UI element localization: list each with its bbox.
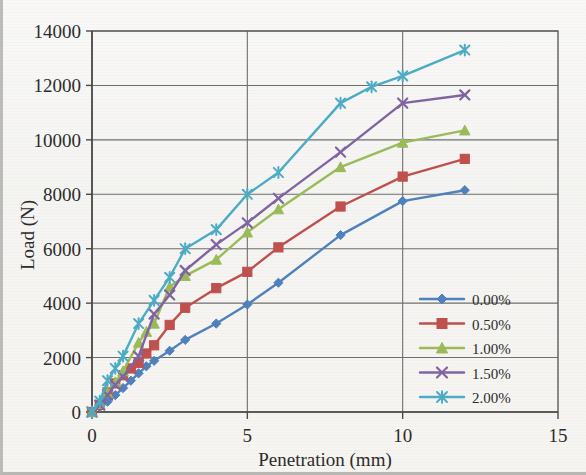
data-point-marker-square — [398, 172, 407, 181]
legend-entry-2-00pct[interactable]: 2.00% — [420, 390, 511, 406]
legend-entry-1-00pct[interactable]: 1.00% — [420, 341, 511, 357]
data-point-marker-square — [150, 341, 159, 350]
legend-entry-0-00pct[interactable]: 0.00% — [420, 292, 511, 308]
x-tick-label: 10 — [393, 425, 412, 446]
data-point-marker-asterisk — [274, 167, 283, 178]
x-tick-label: 5 — [243, 425, 253, 446]
x-axis-tick-labels: 051015 — [87, 425, 567, 446]
data-point-marker-asterisk — [336, 98, 345, 109]
y-tick-label: 10000 — [34, 130, 82, 151]
data-point-marker-asterisk — [134, 318, 143, 329]
y-tick-label: 14000 — [34, 21, 82, 42]
data-point-marker-diamond — [460, 186, 469, 195]
line-chart: 02000400060008000100001200014000 051015 … — [0, 0, 586, 475]
chart-canvas: 02000400060008000100001200014000 051015 … — [0, 0, 586, 475]
legend-entry-0-50pct[interactable]: 0.50% — [420, 317, 511, 333]
data-point-marker-x — [336, 148, 345, 157]
series-2-00pct — [87, 45, 469, 418]
data-point-marker-asterisk — [460, 45, 469, 56]
legend-label: 0.50% — [472, 317, 511, 333]
y-tick-label: 6000 — [43, 239, 81, 260]
data-point-marker-asterisk — [118, 351, 127, 362]
x-tick-label: 0 — [87, 425, 97, 446]
data-point-marker-asterisk — [150, 295, 159, 306]
series-0-00pct — [87, 186, 469, 417]
data-point-marker-square — [243, 267, 252, 276]
x-tick-label: 15 — [549, 425, 568, 446]
x-axis-title: Penetration (mm) — [258, 449, 392, 471]
y-tick-label: 2000 — [43, 348, 81, 369]
series-path — [92, 190, 465, 412]
data-point-marker-square — [460, 154, 469, 163]
y-tick-label: 0 — [72, 402, 82, 423]
data-series-layer — [87, 45, 470, 418]
data-point-marker-square — [181, 303, 190, 312]
y-axis-tick-labels: 02000400060008000100001200014000 — [34, 21, 82, 423]
data-point-marker-asterisk — [212, 224, 221, 235]
legend-label: 0.00% — [472, 292, 511, 308]
data-point-marker-diamond — [398, 196, 407, 205]
data-point-marker-square — [437, 319, 447, 329]
y-axis-title: Load (N) — [17, 200, 39, 270]
data-point-marker-square — [165, 320, 174, 329]
data-point-marker-x — [274, 194, 283, 203]
data-point-marker-square — [212, 284, 221, 293]
chart-legend: 0.00%0.50%1.00%1.50%2.00% — [420, 292, 511, 406]
data-point-marker-square — [336, 202, 345, 211]
data-point-marker-asterisk — [165, 272, 174, 283]
data-point-marker-diamond — [437, 294, 447, 304]
y-tick-label: 8000 — [43, 184, 81, 205]
legend-label: 1.50% — [472, 366, 511, 382]
data-point-marker-x — [212, 240, 221, 249]
y-tick-label: 4000 — [43, 293, 81, 314]
legend-label: 2.00% — [472, 390, 511, 406]
y-tick-label: 12000 — [34, 75, 82, 96]
legend-label: 1.00% — [472, 341, 511, 357]
legend-entry-1-50pct[interactable]: 1.50% — [420, 366, 511, 382]
data-point-marker-square — [274, 243, 283, 252]
data-point-marker-asterisk — [111, 363, 120, 374]
